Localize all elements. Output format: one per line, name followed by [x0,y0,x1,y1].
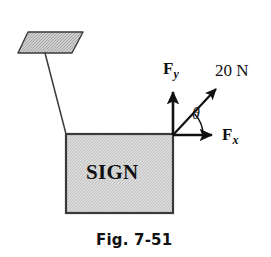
label-force-y-symbol: F [163,59,173,78]
figure-caption: Fig. 7-51 [96,231,172,249]
support-cable [45,53,66,134]
label-force-x-subscript: x [232,133,238,147]
label-resultant-magnitude: 20 N [215,62,249,79]
label-force-y-subscript: y [173,67,178,81]
label-sign-text: SIGN [86,160,139,185]
label-force-x: Fx [222,126,238,146]
label-angle-theta: θ [192,106,200,122]
physics-figure: Fy Fx 20 N θ SIGN Fig. 7-51 [0,0,271,257]
label-force-x-symbol: F [222,125,232,144]
label-force-y: Fy [163,60,179,80]
bracket-plate [18,32,83,53]
